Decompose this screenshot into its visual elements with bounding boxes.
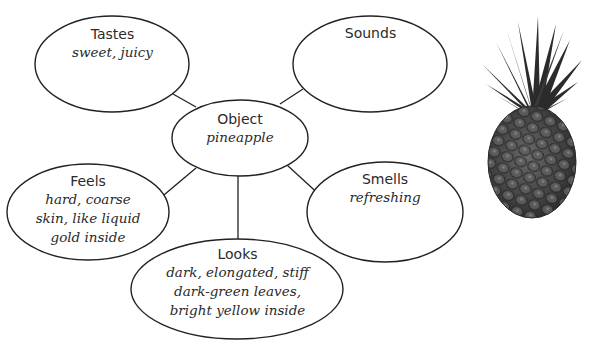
node-feels: Feels hard, coarse skin, like liquid gol…: [12, 172, 164, 247]
node-title: Feels: [12, 172, 164, 190]
node-title: Object: [175, 110, 305, 128]
node-text: bright yellow inside: [135, 301, 340, 320]
node-object: Object pineapple: [175, 110, 305, 147]
connector-tastes: [173, 94, 196, 107]
node-text: dark-green leaves,: [135, 282, 340, 301]
node-text: dark, elongated, stiff: [135, 263, 340, 282]
node-text: skin, like liquid: [12, 209, 164, 228]
node-tastes: Tastes sweet, juicy: [40, 25, 185, 62]
node-text: pineapple: [175, 128, 305, 147]
pineapple-crown: [482, 16, 582, 116]
node-smells: Smells refreshing: [310, 170, 460, 207]
node-text: hard, coarse: [12, 190, 164, 209]
node-title: Smells: [310, 170, 460, 188]
node-looks: Looks dark, elongated, stiff dark-green …: [135, 245, 340, 320]
node-sounds: Sounds: [298, 24, 443, 42]
node-title: Tastes: [40, 25, 185, 43]
node-text: sweet, juicy: [40, 43, 185, 62]
connector-sounds: [280, 89, 303, 104]
pineapple-image: [478, 12, 586, 220]
node-title: Sounds: [298, 24, 443, 42]
node-title: Looks: [135, 245, 340, 263]
node-text: refreshing: [310, 188, 460, 207]
